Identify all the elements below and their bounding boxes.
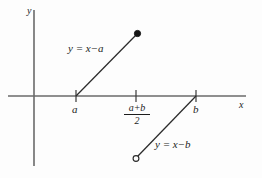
figure-canvas <box>0 0 262 178</box>
math-figure-max-abs-function: y x a a+b 2 b y = x−a y = x−b <box>0 0 262 178</box>
x-axis-label: x <box>239 100 243 110</box>
tick-label-midpoint-numerator: a+b <box>124 103 150 114</box>
tick-label-midpoint-denominator: 2 <box>124 116 150 127</box>
tick-label-midpoint: a+b 2 <box>124 103 150 126</box>
equation-label-upper: y = x−a <box>68 43 104 54</box>
equation-label-lower: y = x−b <box>155 139 191 150</box>
closed-endpoint-marker-upper <box>134 30 140 36</box>
tick-label-a: a <box>72 104 78 115</box>
tick-label-b: b <box>193 104 199 115</box>
open-endpoint-marker-lower <box>133 156 139 162</box>
y-axis-label: y <box>27 6 31 16</box>
